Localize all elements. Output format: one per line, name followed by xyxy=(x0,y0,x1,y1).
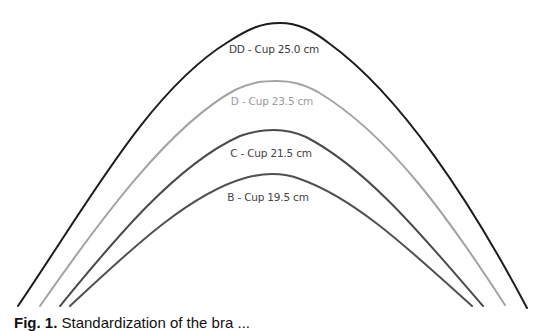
label-dd-cup: DD - Cup 25.0 cm xyxy=(229,43,319,55)
label-b-cup: B - Cup 19.5 cm xyxy=(227,191,308,203)
label-d-cup: D - Cup 23.5 cm xyxy=(231,95,313,107)
caption-prefix: Fig. 1. xyxy=(14,314,57,331)
figure-caption: Fig. 1. Standardization of the bra ... xyxy=(14,314,250,331)
caption-text: Standardization of the bra ... xyxy=(62,314,250,331)
label-c-cup: C - Cup 21.5 cm xyxy=(230,147,312,159)
